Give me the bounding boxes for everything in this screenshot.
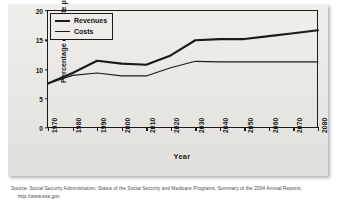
x-tick-label: 2000 [124, 118, 131, 133]
x-tick-mark [122, 127, 123, 131]
x-tick-mark [318, 127, 319, 131]
legend-swatch-costs [55, 31, 70, 32]
y-tick-label: 5 [21, 95, 43, 102]
y-tick-mark [45, 10, 48, 11]
x-tick-label: 2080 [321, 118, 328, 133]
figure-page: Percentage of taxable payroll 0510152019… [0, 0, 337, 207]
y-tick-mark [45, 69, 48, 70]
x-tick-mark [73, 127, 74, 131]
y-tick-label: 20 [21, 8, 43, 15]
x-tick-label: 1980 [75, 118, 82, 133]
x-tick-mark [293, 127, 294, 131]
legend-label-costs: Costs [74, 28, 93, 36]
x-tick-label: 1970 [51, 118, 58, 133]
legend-entry-revenues: Revenues [55, 17, 107, 25]
x-tick-label: 2060 [272, 118, 279, 133]
y-tick-mark [45, 40, 48, 41]
y-tick-label: 10 [21, 66, 43, 73]
y-tick-label: 0 [21, 125, 43, 132]
legend-entry-costs: Costs [55, 28, 107, 36]
x-tick-mark [146, 127, 147, 131]
legend-label-revenues: Revenues [74, 17, 107, 25]
x-tick-label: 2070 [296, 118, 303, 133]
x-tick-mark [195, 127, 196, 131]
y-tick-label: 15 [21, 37, 43, 44]
x-tick-mark [48, 127, 49, 131]
x-tick-label: 2050 [247, 118, 254, 133]
x-tick-mark [220, 127, 221, 131]
x-tick-label: 2010 [149, 118, 156, 133]
x-tick-mark [244, 127, 245, 131]
chart-legend: Revenues Costs [50, 13, 113, 40]
x-axis-title: Year [47, 152, 317, 161]
x-tick-mark [171, 127, 172, 131]
source-line-2: http://www.ssa.gov [11, 193, 331, 201]
x-tick-mark [97, 127, 98, 131]
x-tick-label: 2020 [173, 118, 180, 133]
source-line-1: Source: Social Security Administration, … [11, 185, 331, 193]
x-tick-label: 1990 [100, 118, 107, 133]
x-tick-label: 2030 [198, 118, 205, 133]
x-tick-mark [269, 127, 270, 131]
x-tick-label: 2040 [222, 118, 229, 133]
source-caption: Source: Social Security Administration, … [11, 185, 331, 200]
legend-swatch-revenues [55, 20, 70, 23]
y-tick-mark [45, 98, 48, 99]
